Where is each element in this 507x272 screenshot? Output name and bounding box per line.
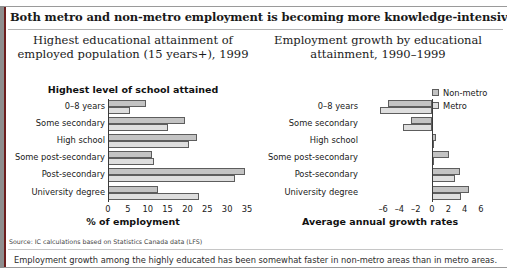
category-label: University degree — [284, 187, 358, 197]
bar-metro — [403, 124, 432, 131]
bar-metro — [432, 193, 461, 200]
headline: Both metro and non-metro employment is b… — [10, 10, 502, 28]
category-label: Some post-secondary — [15, 152, 105, 162]
bar-metro — [108, 124, 168, 131]
bar-nonmetro — [432, 186, 469, 193]
x-tick-label: 25 — [197, 204, 217, 214]
x-tick-label: 30 — [217, 204, 237, 214]
bar-metro — [108, 141, 189, 148]
bar-nonmetro — [108, 117, 185, 124]
category-label: High school — [310, 135, 358, 145]
x-tick-label: 0 — [98, 204, 118, 214]
figure-panel: Both metro and non-metro employment is b… — [0, 0, 507, 272]
bar-metro — [380, 107, 432, 114]
bar-metro — [108, 107, 130, 114]
caption-divider — [8, 249, 503, 250]
axis-baseline — [432, 99, 433, 202]
category-label: High school — [57, 135, 105, 145]
category-label: Some secondary — [36, 118, 105, 128]
frame-left-accent — [4, 6, 6, 268]
legend-item-nonmetro: Non-metro — [432, 82, 487, 93]
legend-label-metro: Metro — [443, 101, 467, 111]
legend-item-metro: Metro — [432, 95, 487, 106]
headline-divider — [8, 29, 503, 30]
category-label: Some secondary — [289, 118, 358, 128]
bar-nonmetro — [411, 117, 432, 124]
left-chart-title: Highest educational attainment of employ… — [14, 33, 252, 61]
bar-metro — [432, 175, 455, 182]
bar-metro — [108, 175, 235, 182]
bar-metro — [108, 193, 199, 200]
bar-nonmetro — [432, 168, 460, 175]
x-tick-label: 5 — [118, 204, 138, 214]
bar-nonmetro — [108, 168, 245, 175]
category-label: 0–8 years — [65, 101, 105, 111]
left-chart-subtitle: Highest level of school attained — [14, 84, 252, 95]
legend-swatch-metro — [432, 102, 439, 109]
bar-metro — [108, 158, 154, 165]
x-tick-label: 20 — [177, 204, 197, 214]
x-tick-label: 15 — [158, 204, 178, 214]
right-axis-title: Average annual growth rates — [258, 216, 502, 227]
x-tick-label: 35 — [237, 204, 257, 214]
category-label: 0–8 years — [318, 101, 358, 111]
bar-nonmetro — [108, 186, 158, 193]
category-label: Post-secondary — [295, 169, 358, 179]
category-label: Some post-secondary — [268, 152, 358, 162]
axis-baseline — [108, 99, 109, 202]
bar-nonmetro — [108, 100, 146, 107]
source-note: Source: IC calculations based on Statist… — [9, 238, 202, 245]
figure-caption: Employment growth among the highly educa… — [14, 255, 502, 265]
x-tick-label: 6 — [471, 204, 491, 214]
frame-top-rule — [4, 6, 507, 7]
category-label: University degree — [31, 187, 105, 197]
legend: Non-metro Metro — [432, 82, 487, 108]
bar-nonmetro — [108, 134, 197, 141]
right-chart-title: Employment growth by educational attainm… — [258, 33, 498, 61]
x-tick-label: 10 — [138, 204, 158, 214]
frame-bottom-rule — [4, 267, 507, 268]
bar-nonmetro — [388, 100, 432, 107]
left-axis-title: % of employment — [14, 216, 252, 227]
bar-nonmetro — [432, 151, 449, 158]
category-label: Post-secondary — [42, 169, 105, 179]
bar-nonmetro — [108, 151, 152, 158]
